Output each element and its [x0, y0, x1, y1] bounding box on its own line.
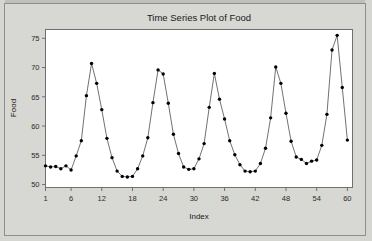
data-point: [197, 157, 200, 160]
x-tick-label: 1: [43, 194, 47, 203]
x-axis-ticks: 16121824303642485460: [43, 188, 351, 203]
data-point: [305, 162, 308, 165]
data-point: [172, 133, 175, 136]
x-axis-label: Index: [189, 212, 209, 221]
data-point: [75, 154, 78, 157]
data-point: [80, 139, 83, 142]
data-point: [264, 147, 267, 150]
data-point: [44, 164, 47, 167]
data-point: [325, 113, 328, 116]
y-tick-label: 65: [31, 93, 39, 102]
y-tick-label: 75: [31, 34, 39, 43]
x-tick-label: 42: [251, 194, 259, 203]
data-point: [238, 163, 241, 166]
chart-title: Time Series Plot of Food: [147, 12, 251, 23]
data-point: [284, 111, 287, 114]
data-point: [121, 175, 124, 178]
data-point: [146, 136, 149, 139]
data-point: [64, 164, 67, 167]
data-point: [346, 138, 349, 141]
data-point: [182, 165, 185, 168]
data-point: [69, 168, 72, 171]
data-point: [335, 34, 338, 37]
data-point: [279, 82, 282, 85]
data-point: [167, 102, 170, 105]
data-point: [151, 101, 154, 104]
data-point: [218, 97, 221, 100]
data-point: [300, 158, 303, 161]
data-point: [136, 167, 139, 170]
x-tick-label: 54: [313, 194, 321, 203]
data-point: [131, 175, 134, 178]
data-point: [310, 159, 313, 162]
data-point: [341, 86, 344, 89]
data-point: [254, 169, 257, 172]
data-point: [110, 156, 113, 159]
data-point: [95, 82, 98, 85]
data-point: [248, 170, 251, 173]
data-point: [202, 142, 205, 145]
data-point: [126, 175, 129, 178]
x-tick-label: 48: [282, 194, 290, 203]
data-point: [49, 165, 52, 168]
x-tick-label: 36: [220, 194, 228, 203]
data-point: [90, 62, 93, 65]
data-point: [320, 144, 323, 147]
time-series-chart: Time Series Plot of Food 505560657075 16…: [0, 0, 372, 241]
y-tick-label: 50: [31, 180, 39, 189]
chart-window: Time Series Plot of Food 505560657075 16…: [0, 0, 372, 241]
y-tick-label: 55: [31, 151, 39, 160]
data-point: [156, 68, 159, 71]
data-point: [105, 137, 108, 140]
y-axis-ticks: 505560657075: [31, 34, 45, 189]
data-point: [233, 153, 236, 156]
data-point: [289, 140, 292, 143]
x-tick-label: 30: [190, 194, 198, 203]
x-tick-label: 24: [159, 194, 167, 203]
x-tick-label: 60: [343, 194, 351, 203]
data-point: [295, 155, 298, 158]
data-point: [59, 167, 62, 170]
data-point: [177, 152, 180, 155]
x-tick-label: 12: [98, 194, 106, 203]
data-point: [243, 169, 246, 172]
x-tick-label: 18: [128, 194, 136, 203]
data-point: [330, 48, 333, 51]
data-point: [54, 165, 57, 168]
data-point: [208, 106, 211, 109]
data-point: [85, 94, 88, 97]
x-tick-label: 6: [69, 194, 73, 203]
data-point: [259, 162, 262, 165]
y-axis-label: Food: [9, 99, 18, 117]
data-point: [228, 139, 231, 142]
data-point: [269, 116, 272, 119]
y-tick-label: 70: [31, 63, 39, 72]
data-point: [161, 72, 164, 75]
data-point: [223, 117, 226, 120]
data-point: [192, 167, 195, 170]
data-point: [141, 154, 144, 157]
data-point: [100, 108, 103, 111]
data-point: [115, 169, 118, 172]
data-point: [274, 65, 277, 68]
y-tick-label: 60: [31, 122, 39, 131]
data-point: [213, 72, 216, 75]
data-point: [315, 158, 318, 161]
data-point: [187, 168, 190, 171]
